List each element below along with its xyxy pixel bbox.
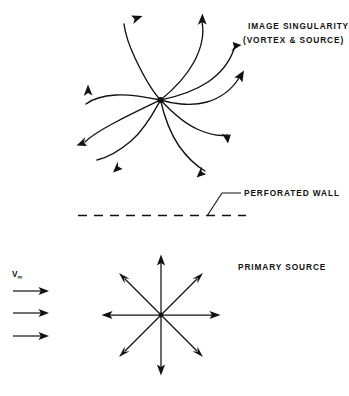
spiral-arm (85, 100, 161, 142)
spiral-arrow-head (234, 71, 244, 83)
spiral-arrow-head (231, 42, 241, 51)
spiral-arm (86, 95, 161, 104)
perforated-wall-leader (207, 193, 241, 216)
perforated-wall-group (78, 193, 246, 216)
primary-source-star (102, 255, 221, 376)
source-ray (161, 315, 197, 351)
freestream-velocity-label: V∞ (12, 269, 23, 280)
primary-source-center-point (159, 313, 164, 318)
perforated-wall-label: PERFORATED WALL (244, 188, 340, 198)
spiral-arrow-head (113, 162, 123, 173)
image-singularity-label-line2: (VORTEX & SOURCE) (243, 35, 344, 45)
spiral-arm (97, 100, 161, 160)
source-ray (125, 315, 161, 351)
spiral-arm (161, 100, 206, 171)
freestream-subscript: ∞ (18, 273, 23, 280)
freestream-velocity-group (13, 287, 49, 340)
spiral-arm (161, 78, 240, 104)
spiral-arrow-head (197, 167, 207, 178)
source-ray (125, 279, 161, 315)
image-singularity-label-line1: IMAGE SINGULARITY (248, 21, 349, 31)
spiral-arrow-head (131, 15, 142, 24)
source-ray (161, 279, 197, 315)
image-singularity-vortex (77, 14, 245, 178)
figure-page: IMAGE SINGULARITY (VORTEX & SOURCE) PERF… (0, 0, 349, 396)
technical-diagram: IMAGE SINGULARITY (VORTEX & SOURCE) PERF… (0, 0, 349, 396)
primary-source-label: PRIMARY SOURCE (238, 262, 326, 272)
spiral-arm (124, 24, 161, 100)
vortex-center-point (157, 97, 163, 103)
spiral-arrow-head (84, 85, 93, 97)
